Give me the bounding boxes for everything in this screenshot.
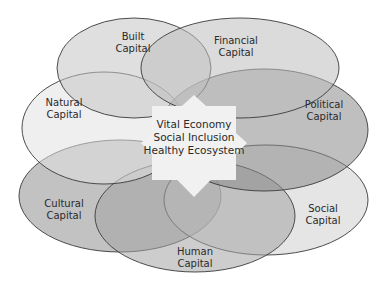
label-natural-capital: Natural Capital xyxy=(46,97,83,121)
goal-vital-economy: Vital Economy xyxy=(144,118,245,131)
label-financial-capital: Financial Capital xyxy=(214,35,258,59)
goal-healthy-ecosystem: Healthy Ecosystem xyxy=(144,144,245,157)
label-human-capital: Human Capital xyxy=(177,246,213,270)
center-goals: Vital Economy Social Inclusion Healthy E… xyxy=(144,118,245,157)
label-cultural-capital: Cultural Capital xyxy=(44,198,83,222)
goal-social-inclusion: Social Inclusion xyxy=(144,131,245,144)
label-social-capital: Social Capital xyxy=(305,203,340,227)
label-built-capital: Built Capital xyxy=(115,31,150,55)
label-political-capital: Political Capital xyxy=(305,99,343,123)
